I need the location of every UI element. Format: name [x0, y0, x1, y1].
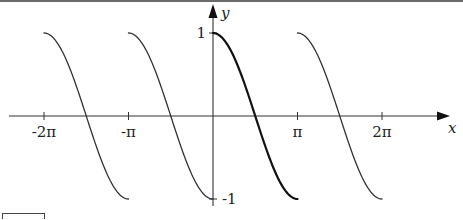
- y-axis-label: y: [220, 4, 230, 22]
- x-tick-label: -2π: [32, 123, 57, 141]
- y-axis-arrow-icon: [209, 4, 218, 18]
- x-tick-label: π: [293, 123, 303, 141]
- x-tick-label: -π: [121, 123, 136, 141]
- x-axis-label: x: [448, 119, 457, 137]
- y-tick-label: -1: [222, 190, 237, 208]
- y-tick-label: 1: [196, 24, 206, 42]
- cosine-periodic-plot: x y -2π-ππ2π 1-1: [0, 0, 463, 219]
- corner-box: [3, 214, 45, 220]
- x-tick-label: 2π: [372, 123, 392, 141]
- top-frame-line: [0, 0, 463, 2]
